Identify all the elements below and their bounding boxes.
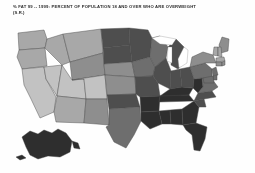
state-sd	[103, 45, 132, 64]
state-ga	[182, 101, 199, 125]
state-vt	[213, 47, 218, 56]
state-nj	[212, 67, 218, 76]
state-or	[17, 48, 47, 69]
great-lakes-michigan	[167, 47, 172, 63]
state-ak-aleutians	[16, 155, 26, 160]
state-ne	[104, 62, 135, 77]
state-ct	[216, 62, 222, 66]
state-ak-panhandle	[72, 141, 80, 149]
state-ak	[22, 129, 72, 159]
chart-title-line-2: (S.R.)	[13, 10, 249, 16]
state-tx	[106, 107, 141, 148]
state-wa	[18, 30, 47, 50]
state-mn	[129, 28, 152, 62]
us-choropleth-map	[0, 17, 255, 173]
state-az	[54, 96, 86, 123]
state-ks	[105, 75, 136, 95]
state-ok	[107, 94, 140, 109]
state-nd	[101, 28, 130, 48]
chart-title-block: % FAT 99 -- 1999: PERCENT OF POPULATION …	[13, 4, 249, 16]
state-la	[141, 111, 162, 129]
state-al	[170, 109, 183, 125]
figure-container: % FAT 99 -- 1999: PERCENT OF POPULATION …	[0, 0, 255, 173]
state-ri	[222, 61, 225, 66]
state-fl	[183, 123, 207, 151]
state-nm	[84, 99, 109, 125]
state-tn	[159, 95, 194, 102]
alaska-inset	[16, 129, 80, 160]
state-ar	[140, 96, 160, 112]
map-svg	[0, 17, 255, 173]
